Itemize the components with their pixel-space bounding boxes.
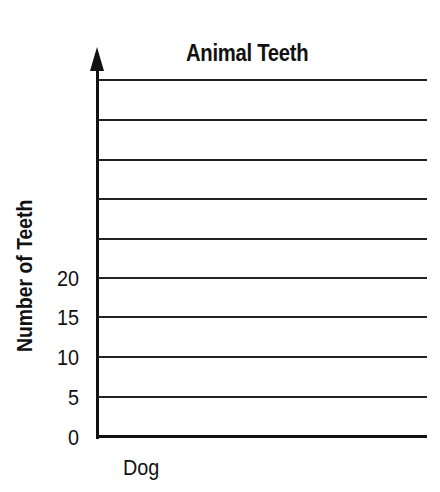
- y-axis-line: [96, 60, 99, 439]
- x-category-dog: Dog: [123, 455, 159, 481]
- y-tick-10: 10: [43, 347, 79, 369]
- y-tick-15: 15: [43, 307, 79, 329]
- gridline-5-value: [98, 396, 427, 398]
- gridline-9: [98, 79, 427, 81]
- y-tick-5: 5: [43, 387, 79, 409]
- gridline-15: [98, 316, 427, 318]
- gridline-5: [98, 238, 427, 240]
- gridline-10: [98, 356, 427, 358]
- gridline-20: [98, 277, 427, 279]
- y-tick-0: 0: [43, 427, 79, 449]
- gridline-6: [98, 198, 427, 200]
- y-axis-label: Number of Teeth: [12, 200, 38, 352]
- x-axis-line: [96, 435, 427, 438]
- gridline-7: [98, 159, 427, 161]
- gridline-8: [98, 119, 427, 121]
- y-tick-20: 20: [43, 268, 79, 290]
- chart-title: Animal Teeth: [186, 40, 308, 67]
